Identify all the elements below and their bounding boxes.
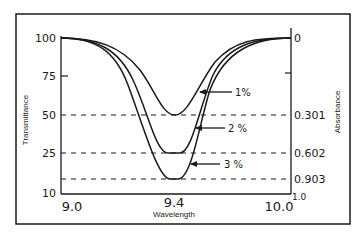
ytick-50: 50 bbox=[42, 109, 56, 122]
y-axis-title: Transmittance bbox=[21, 94, 30, 145]
x-axis-title: Wavelength bbox=[153, 210, 195, 219]
label-2-percent: 2 % bbox=[228, 123, 247, 134]
label-3-percent: 3 % bbox=[224, 159, 243, 170]
curve-3-percent bbox=[61, 38, 291, 179]
y2tick-0301: 0.301 bbox=[294, 109, 326, 122]
y2tick-0602: 0.602 bbox=[294, 147, 326, 160]
y2tick-1: 1.0 bbox=[292, 192, 307, 202]
xtick-9-4: 9.4 bbox=[164, 195, 185, 210]
xtick-10-0: 10.0 bbox=[265, 199, 294, 214]
xtick-9-0: 9.0 bbox=[62, 199, 83, 214]
y2tick-0903: 0.903 bbox=[294, 173, 326, 186]
ytick-10: 10 bbox=[42, 187, 56, 200]
y2tick-0: 0 bbox=[294, 32, 301, 45]
ytick-100: 100 bbox=[35, 32, 56, 45]
curve-1-percent bbox=[61, 38, 291, 115]
ytick-75: 75 bbox=[42, 70, 56, 83]
y2-axis-title: Absorbance bbox=[333, 90, 342, 133]
arrowhead-1-percent bbox=[199, 89, 206, 95]
label-1-percent: 1% bbox=[235, 87, 251, 98]
curve-2-percent bbox=[61, 38, 291, 153]
ytick-25: 25 bbox=[42, 147, 56, 160]
transmittance-absorbance-chart: 100 75 50 25 10 0 0.301 0.602 0.903 1.0 … bbox=[0, 0, 364, 237]
